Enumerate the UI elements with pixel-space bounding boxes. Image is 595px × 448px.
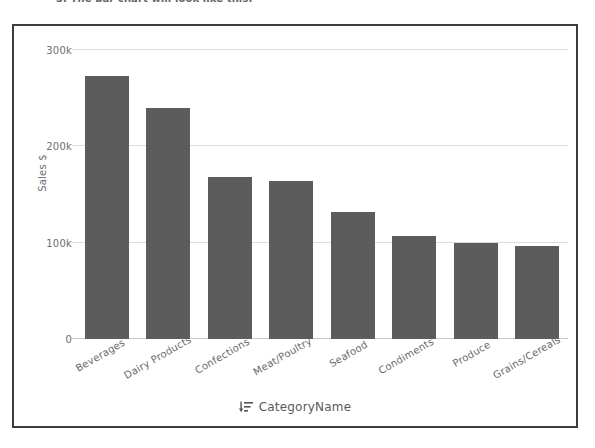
bar-slot (261, 40, 323, 339)
bar-slot (384, 40, 446, 339)
bar[interactable] (146, 108, 190, 339)
x-axis-tick-label: Condiments (377, 336, 436, 376)
y-axis-tick-label: 100k (26, 237, 72, 248)
plot-area (76, 40, 568, 339)
bar-slot (76, 40, 138, 339)
bar[interactable] (515, 246, 559, 339)
bar[interactable] (85, 76, 129, 339)
bar[interactable] (208, 177, 252, 339)
bar-slot (507, 40, 569, 339)
x-axis-tick-label: Meat/Poultry (252, 335, 314, 377)
bar[interactable] (454, 243, 498, 339)
figure-caption: 3. The bar chart will look like this: (56, 0, 253, 4)
y-axis-tick-label: 300k (26, 44, 72, 55)
sort-descending-icon[interactable] (239, 401, 253, 413)
x-axis-tick-label: Beverages (74, 337, 127, 374)
bar[interactable] (331, 212, 375, 339)
y-axis-tick-label: 200k (26, 141, 72, 152)
x-axis-tick-label: Produce (451, 339, 493, 369)
x-axis-tick-label: Seafood (327, 339, 369, 370)
bar-series (76, 40, 568, 339)
bar-slot (199, 40, 261, 339)
bar[interactable] (392, 236, 436, 339)
y-axis-tick-label: 0 (26, 334, 72, 345)
x-axis-title-row[interactable]: CategoryName (14, 400, 576, 414)
x-axis-title: CategoryName (259, 400, 352, 414)
x-axis-tick-label: Confections (193, 336, 251, 376)
bar-slot (138, 40, 200, 339)
bar-slot (322, 40, 384, 339)
bar[interactable] (269, 181, 313, 339)
chart-frame: Sales $ 0100k200k300k BeveragesDairy Pro… (12, 24, 578, 428)
bar-slot (445, 40, 507, 339)
y-axis: 0100k200k300k (20, 26, 72, 426)
chart-plot-wrapper: Sales $ 0100k200k300k BeveragesDairy Pro… (14, 26, 576, 426)
